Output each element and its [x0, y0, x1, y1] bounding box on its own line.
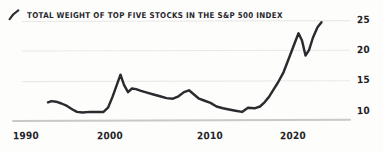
x-tick-label-2000: 2000: [97, 130, 123, 141]
x-tick-label-2020: 2020: [280, 130, 306, 141]
y-tick-label-20: 20: [357, 44, 370, 55]
y-tick-label-25: 25: [357, 14, 370, 25]
x-tick-label-1990: 1990: [13, 130, 39, 141]
x-axis-line: [13, 120, 350, 121]
gridline-15: [22, 81, 350, 82]
gridline-25: [22, 21, 350, 22]
data-line-top-five-weight: [48, 22, 322, 112]
gridline-20: [22, 50, 350, 51]
chart-container: TOTAL WEIGHT OF TOP FIVE STOCKS IN THE S…: [0, 0, 383, 153]
plot-area: [0, 0, 383, 153]
y-tick-label-10: 10: [357, 105, 370, 116]
x-tick-label-2010: 2010: [197, 130, 223, 141]
y-tick-label-15: 15: [357, 74, 370, 85]
